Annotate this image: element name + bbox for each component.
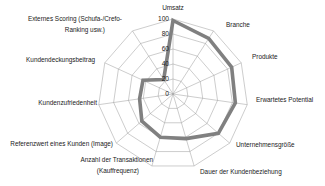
radial-tick-label: 20 [162,75,170,82]
category-label: Kundendeckungsbeitrag [26,56,95,64]
radar-chart: 100806040200 UmsatzBrancheProdukteErwart… [0,0,325,186]
radial-tick-label: 40 [162,60,170,67]
category-label: Anzahl der Transaktionen [81,156,154,163]
axis-spoke [99,94,173,105]
radial-tick-label: 80 [162,30,170,37]
radial-tick-label: 60 [162,45,170,52]
category-label: Umsatz [162,4,184,11]
category-label: Externes Scoring (Schufa-/Crefo- [28,15,122,23]
radial-tick-label: 0 [165,90,169,97]
axis-spoke [152,94,173,166]
category-label: Dauer der Kundenbeziehung [200,168,282,176]
category-label: (Kauffrequenz) [97,167,139,175]
category-label: Branche [226,21,250,28]
radar-chart-page: 100806040200 UmsatzBrancheProdukteErwart… [0,0,325,186]
category-label: Referenzwert eines Kunden (Image) [10,140,113,148]
category-label: Kundenzufriedenheit [38,99,97,106]
radial-tick-label: 100 [158,15,169,22]
category-label: Ranking usw.) [65,26,105,34]
category-label: Unternehmensgröße [236,141,295,149]
category-label: Erwartetes Potential [256,96,313,103]
axis-spoke [173,94,194,166]
category-label: Produkte [252,53,278,60]
chart-spokes [99,19,247,166]
